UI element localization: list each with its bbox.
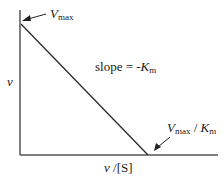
vmax-sub: max xyxy=(58,12,74,22)
series-line-segment xyxy=(21,24,148,155)
vmaxkm-arrow-head xyxy=(154,143,161,151)
x-int-max: max xyxy=(175,126,191,136)
x-axis-label-rest: /[S] xyxy=(110,160,133,175)
slope-label: slope = -Km xyxy=(95,59,156,75)
y-intercept-label: Vmax xyxy=(50,6,74,22)
slope-text: slope = - xyxy=(95,59,141,74)
eadie-hofstee-plot: Vmax slope = -Km v Vmax / Km v /[S] xyxy=(0,0,224,182)
vmax-arrow-head xyxy=(22,15,31,21)
x-int-m: m xyxy=(209,126,216,136)
x-intercept-label: Vmax / Km xyxy=(167,120,216,136)
x-int-sep: / xyxy=(190,120,200,135)
vmaxkm-arrow-shaft xyxy=(158,137,170,147)
y-axis-label: v xyxy=(7,74,13,89)
x-axis-label: v /[S] xyxy=(104,160,133,175)
slope-sub: m xyxy=(149,65,156,75)
vmax-arrow-shaft xyxy=(28,14,46,19)
